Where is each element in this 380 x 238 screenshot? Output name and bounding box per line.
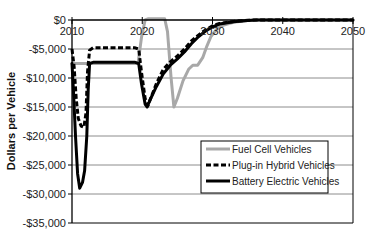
legend-label: Plug-in Hybrid Vehicles [232,160,335,171]
x-tick-label: 2010 [60,25,84,37]
y-tick-label: -$20,000 [23,130,66,142]
x-tick-label: 2040 [271,25,295,37]
x-tick-label: 2050 [341,25,365,37]
y-tick-label: -$15,000 [23,101,66,113]
y-tick-label: -$25,000 [23,159,66,171]
y-tick-label: $0 [54,14,66,26]
legend: Fuel Cell Vehicles Plug-in Hybrid Vehicl… [201,141,339,193]
y-tick-label: -$35,000 [23,217,66,229]
y-tick-label: -$30,000 [23,188,66,200]
x-tick-label: 2030 [200,25,224,37]
legend-label: Fuel Cell Vehicles [232,144,311,155]
x-tick-label: 2020 [130,25,154,37]
line-chart: 20102020203020402050 $0-$5,000-$10,000-$… [0,0,380,238]
y-tick-label: -$5,000 [29,43,66,55]
y-axis-title: Dollars per Vehicle [5,72,17,170]
legend-label: Battery Electric Vehicles [232,176,339,187]
y-axis-ticks: $0-$5,000-$10,000-$15,000-$20,000-$25,00… [23,14,72,229]
y-tick-label: -$10,000 [23,72,66,84]
